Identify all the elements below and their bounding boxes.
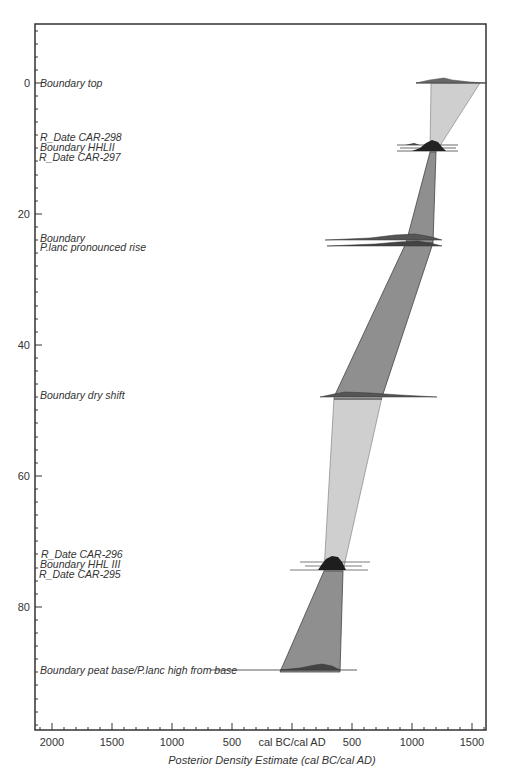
x-major-ticks: [52, 723, 472, 730]
y-tick-labels: 0 20 40 60 80: [18, 77, 30, 613]
chart: 0 20 40 60 80 2000 1500 1000 500 cal BC/…: [0, 0, 505, 768]
bands: [280, 83, 480, 672]
y-tick-label: 60: [18, 470, 30, 482]
y-tick-label: 80: [18, 601, 30, 613]
x-tick-labels: 2000 1500 1000 500 cal BC/cal AD 500 100…: [40, 736, 484, 748]
x-axis-title: Posterior Density Estimate (cal BC/cal A…: [168, 754, 376, 766]
item-label: Boundary peat base/P.lanc high from base: [40, 664, 237, 676]
x-tick-label: 1500: [100, 736, 124, 748]
plot-frame: [35, 24, 486, 730]
band-dryshift-to-hhliii: [324, 397, 382, 571]
item-label: Boundary dry shift: [40, 389, 126, 401]
x-tick-label: 1500: [460, 736, 484, 748]
band-hhlii-to-planc: [406, 152, 436, 243]
x-tick-label: 1000: [400, 736, 424, 748]
x-tick-label: cal BC/cal AD: [258, 736, 325, 748]
item-label: R_Date CAR-295: [39, 568, 121, 580]
x-tick-label: 2000: [40, 736, 64, 748]
item-labels: Boundary top R_Date CAR-298 Boundary HHL…: [39, 77, 237, 676]
x-tick-label: 1000: [160, 736, 184, 748]
band-hhliii-to-peatbase: [280, 571, 343, 672]
item-label: Boundary top: [40, 77, 103, 89]
density-car-298: [405, 143, 420, 145]
x-tick-label: 500: [343, 736, 361, 748]
y-tick-label: 40: [18, 339, 30, 351]
x-axis: [40, 723, 484, 730]
density-boundary-top: [416, 78, 487, 83]
band-planc-to-dryshift: [334, 243, 433, 397]
band-top-to-hhlii: [430, 83, 480, 152]
item-label: P.lanc pronounced rise: [40, 241, 146, 253]
item-label: R_Date CAR-297: [39, 151, 122, 163]
x-tick-label: 500: [223, 736, 241, 748]
y-tick-label: 20: [18, 208, 30, 220]
y-tick-label: 0: [24, 77, 30, 89]
